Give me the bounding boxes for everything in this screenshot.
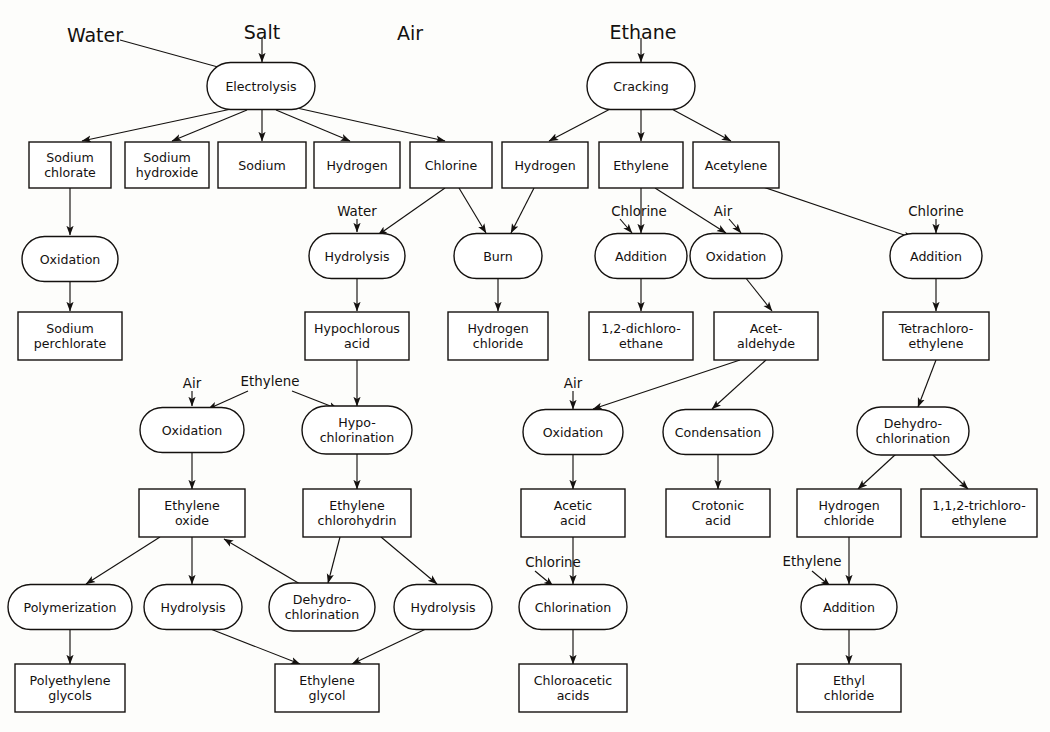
feed-ethylene_add_ec: Ethylene — [783, 554, 842, 569]
edge-hydrogen_crack-to-burn — [511, 188, 534, 233]
edge-acetaldehyde-to-oxidation_acetic — [593, 360, 740, 409]
process-addition_ethylcl-label: Addition — [823, 600, 875, 615]
node-chloroacetic_acids-label: acids — [557, 688, 590, 703]
feed-air_oxidation1: Air — [714, 204, 733, 219]
edge-electrolysis-to-sodium_hydroxide — [172, 110, 247, 141]
node-hydrogen_electro-label: Hydrogen — [326, 158, 387, 173]
edge-hydrolysis_eg1-to-ethylene_glycol — [208, 628, 300, 664]
node-ethylene_chlorohydrin-label: Ethylene — [329, 498, 385, 513]
process-chlorination-label: Chlorination — [535, 600, 611, 615]
process-dehydro_tce-label: Dehydro- — [884, 416, 942, 431]
edge-cracking-to-hydrogen_crack — [549, 107, 614, 141]
node-dichloroethane-label: 1,2-dichloro- — [601, 321, 681, 336]
node-polyethylene_glycols-label: glycols — [48, 688, 92, 703]
process-hydrolysis_hocl-label: Hydrolysis — [324, 249, 389, 264]
process-oxidation_acet-label: Oxidation — [706, 249, 767, 264]
node-hypochlorous_acid-label: Hypochlorous — [314, 321, 400, 336]
node-chlorine-label: Chlorine — [425, 158, 478, 173]
edge-acetaldehyde-to-condensation — [712, 360, 766, 409]
node-acetic_acid-label: Acetic — [554, 498, 593, 513]
edge-chlorine_chlorin-to-chlorination — [535, 571, 553, 586]
edge-air_oxidation1-to-oxidation_acet — [729, 219, 741, 233]
node-tetrachloroethylene-label: ethylene — [908, 336, 963, 351]
feed-chlorine_addition1: Chlorine — [611, 204, 667, 219]
edge-ethylene_chlorohydrin-to-hydrolysis_eg2 — [381, 537, 437, 584]
edge-chlorine-to-burn — [459, 188, 486, 233]
feed-air_oxidation_eo: Air — [183, 376, 202, 391]
node-hydrogen_crack-label: Hydrogen — [514, 158, 575, 173]
edge-dehydro_tce-to-hydrogen_chloride2 — [858, 454, 896, 489]
process-condensation-label: Condensation — [675, 425, 762, 440]
node-ethyl_chloride-label: Ethyl — [833, 673, 865, 688]
node-trichloroethylene-label: ethylene — [951, 513, 1006, 528]
node-trichloroethylene-label: 1,1,2-trichloro- — [932, 498, 1026, 513]
node-acetic_acid-label: acid — [560, 513, 586, 528]
node-hypochlorous_acid-label: acid — [344, 336, 370, 351]
node-sodium-label: Sodium — [238, 158, 285, 173]
edge-dehydro_tce-to-trichloroethylene — [932, 454, 968, 489]
node-polyethylene_glycols-label: Polyethylene — [30, 673, 111, 688]
process-cracking-label: Cracking — [613, 79, 668, 94]
edge-ethylene_add_ec-to-addition_ethylcl — [812, 571, 830, 586]
node-hydrogen_chloride-label: Hydrogen — [467, 321, 528, 336]
node-ethylene_oxide-label: Ethylene — [164, 498, 220, 513]
node-hydrogen_chloride2-label: chloride — [824, 513, 875, 528]
process-hydrolysis_eg1-label: Hydrolysis — [160, 600, 225, 615]
edge-cracking-to-acetylene — [668, 107, 731, 141]
process-hypochlorination-label: chlorination — [320, 430, 395, 445]
edge-dehydro_eo-to-ethylene_oxide — [224, 539, 300, 584]
node-sodium_perchlorate-label: perchlorate — [34, 336, 107, 351]
node-crotonic_acid-label: acid — [705, 513, 731, 528]
node-crotonic_acid-label: Crotonic — [692, 498, 745, 513]
process-electrolysis-label: Electrolysis — [225, 79, 296, 94]
edge-acetylene-to-addition_tetra — [760, 186, 913, 238]
process-hydrolysis_eg2-label: Hydrolysis — [410, 600, 475, 615]
node-ethylene_chlorohydrin-label: chlorohydrin — [318, 513, 397, 528]
feed-chlorine_chlorin: Chlorine — [525, 555, 581, 570]
edge-ethylene_chlorohydrin-to-dehydro_eo — [328, 537, 340, 583]
node-sodium_chlorate-label: chlorate — [44, 165, 96, 180]
edge-hydrolysis_eg2-to-ethylene_glycol — [352, 628, 428, 664]
process-dehydro_tce-label: chlorination — [876, 431, 951, 446]
feed-water_top: Water — [67, 24, 123, 46]
node-ethylene_glycol-label: Ethylene — [299, 673, 355, 688]
node-acetaldehyde-label: aldehyde — [737, 336, 795, 351]
node-tetrachloroethylene-label: Tetrachloro- — [898, 321, 974, 336]
feed-air_top: Air — [397, 22, 423, 44]
edge-electrolysis-to-chlorine — [288, 106, 445, 141]
node-sodium_hydroxide-label: hydroxide — [136, 165, 199, 180]
node-acetaldehyde-label: Acet- — [750, 321, 783, 336]
process-oxidation_eo-label: Oxidation — [162, 423, 223, 438]
edge-oxidation_acet-to-acetaldehyde — [745, 277, 772, 311]
feed-water_hydrolysis: Water — [337, 204, 377, 219]
feed-air_oxidation_ac: Air — [564, 376, 583, 391]
node-ethylene-label: Ethylene — [613, 158, 669, 173]
process-flow-diagram: SodiumchlorateSodiumhydroxideSodiumHydro… — [0, 0, 1050, 732]
process-polymerization-label: Polymerization — [24, 600, 117, 615]
node-sodium_perchlorate-label: Sodium — [46, 321, 93, 336]
process-burn-label: Burn — [483, 249, 513, 264]
node-sodium_chlorate-label: Sodium — [46, 150, 93, 165]
process-dehydro_eo-label: chlorination — [285, 607, 360, 622]
edge-electrolysis-to-hydrogen_electro — [276, 110, 350, 141]
feed-salt_top: Salt — [244, 21, 280, 43]
node-ethylene_glycol-label: glycol — [308, 688, 345, 703]
node-hydrogen_chloride2-label: Hydrogen — [818, 498, 879, 513]
edge-ethylene_oxide-to-polymerization — [86, 537, 160, 584]
edge-tetrachloroethylene-to-dehydro_tce — [918, 360, 936, 407]
node-ethylene_oxide-label: oxide — [175, 513, 209, 528]
feed-ethane_top: Ethane — [610, 21, 677, 43]
feed-ethylene_oxide_feed: Ethylene — [241, 374, 300, 389]
process-dehydro_eo-label: Dehydro- — [293, 592, 351, 607]
process-oxidation_chlorate-label: Oxidation — [40, 252, 101, 267]
node-ethyl_chloride-label: chloride — [824, 688, 875, 703]
edge-chlorine-to-hydrolysis_hocl — [378, 188, 445, 235]
edge-ethylene_oxide_feed-to-oxidation_eo — [208, 391, 248, 409]
feed-chlorine_addition2: Chlorine — [908, 204, 964, 219]
node-sodium_hydroxide-label: Sodium — [143, 150, 190, 165]
edge-chlorine_addition1-to-addition_dce — [620, 219, 632, 233]
process-hypochlorination-label: Hypo- — [338, 415, 375, 430]
process-addition_dce-label: Addition — [615, 249, 667, 264]
node-chloroacetic_acids-label: Chloroacetic — [534, 673, 612, 688]
node-hydrogen_chloride-label: chloride — [473, 336, 524, 351]
